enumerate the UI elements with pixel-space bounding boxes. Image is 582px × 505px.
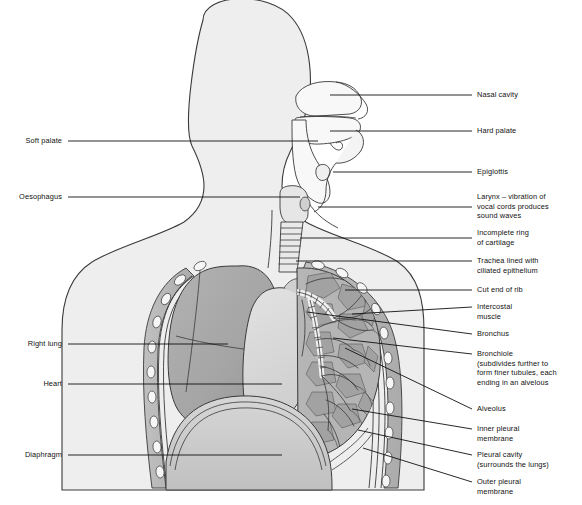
label-trachea: Trachea lined with ciliated epithelium [477, 256, 539, 275]
label-nasal-cavity: Nasal cavity [477, 90, 518, 100]
respiratory-system-diagram: Nasal cavityHard palateEpiglottisLarynx … [0, 0, 582, 505]
label-incomplete-ring: Incomplete ring of cartilage [477, 228, 529, 247]
label-bronchiole: Bronchiole (subdivides further to form f… [477, 349, 557, 387]
label-epiglottis: Epiglottis [477, 167, 508, 177]
label-cut-end-of-rib: Cut end of rib [477, 285, 523, 295]
label-bronchus: Bronchus [477, 329, 509, 339]
label-hard-palate: Hard palate [477, 126, 516, 136]
label-pleural-cavity: Pleural cavity (surrounds the lungs) [477, 450, 549, 469]
label-outer-pleural-membrane: Outer pleural membrane [477, 477, 521, 496]
label-diaphragm: Diaphragm [0, 450, 62, 460]
label-heart: Heart [0, 379, 62, 389]
label-oesophagus: Oesophagus [0, 192, 62, 202]
label-intercostal-muscle: Intercostal muscle [477, 302, 512, 321]
label-inner-pleural-membrane: Inner pleural membrane [477, 424, 519, 443]
label-larynx: Larynx – vibration of vocal cords produc… [477, 192, 549, 221]
label-alveolus: Alveolus [477, 404, 506, 414]
label-soft-palate: Soft palate [0, 136, 62, 146]
label-right-lung: Right lung [0, 339, 62, 349]
